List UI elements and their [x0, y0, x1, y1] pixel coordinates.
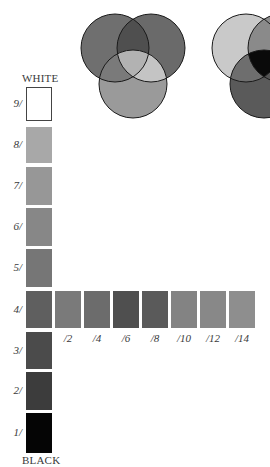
additive-venn — [81, 14, 185, 118]
chroma-swatch — [229, 291, 255, 328]
chroma-label: /6 — [112, 332, 140, 344]
chroma-swatch — [171, 291, 197, 328]
value-swatch — [26, 372, 52, 410]
white-label: WHITE — [22, 72, 58, 84]
value-label: 9/ — [0, 97, 22, 109]
value-label: 3/ — [0, 344, 22, 356]
chroma-label: /14 — [228, 332, 256, 344]
value-label: 6/ — [0, 220, 22, 232]
value-swatch — [26, 291, 52, 328]
value-label: 7/ — [0, 179, 22, 191]
chroma-swatch — [142, 291, 168, 328]
subtractive-venn — [212, 14, 270, 118]
value-label: 4/ — [0, 303, 22, 315]
value-swatch — [26, 332, 52, 369]
chroma-swatch — [55, 291, 81, 328]
value-label: 2/ — [0, 384, 22, 396]
value-swatch — [26, 249, 52, 287]
value-label: 1/ — [0, 426, 22, 438]
chroma-label: /12 — [199, 332, 227, 344]
chroma-swatch — [113, 291, 139, 328]
value-swatch — [26, 87, 52, 121]
chroma-label: /4 — [83, 332, 111, 344]
chroma-label: /2 — [54, 332, 82, 344]
chroma-label: /10 — [170, 332, 198, 344]
chroma-swatch — [84, 291, 110, 328]
black-label: BLACK — [22, 454, 60, 466]
chroma-label: /8 — [141, 332, 169, 344]
value-label: 5/ — [0, 261, 22, 273]
value-swatch — [26, 413, 52, 453]
value-swatch — [26, 208, 52, 246]
value-swatch — [26, 127, 52, 163]
value-swatch — [26, 167, 52, 205]
chroma-swatch — [200, 291, 226, 328]
value-label: 8/ — [0, 138, 22, 150]
